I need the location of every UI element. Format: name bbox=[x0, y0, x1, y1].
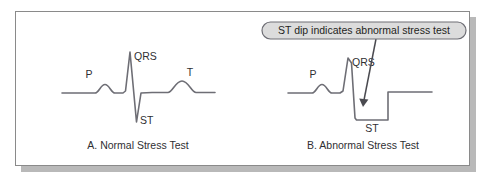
abnormal-label-p: P bbox=[309, 68, 316, 80]
callout-pointer-arrowhead bbox=[359, 99, 368, 107]
figure-root: P QRS ST T A. Normal Stress Test P QRS S… bbox=[0, 0, 488, 187]
callout-pointer-line bbox=[364, 39, 376, 100]
panel-normal: P QRS ST T A. Normal Stress Test bbox=[62, 50, 215, 151]
normal-panel-caption: A. Normal Stress Test bbox=[87, 139, 188, 151]
panel-abnormal: P QRS ST B. Abnormal Stress Test bbox=[288, 56, 432, 151]
abnormal-label-st: ST bbox=[365, 122, 379, 134]
normal-label-st: ST bbox=[140, 114, 154, 126]
abnormal-panel-caption: B. Abnormal Stress Test bbox=[307, 139, 419, 151]
callout-label: ST dip indicates abnormal stress test bbox=[278, 24, 450, 36]
ecg-diagram-svg: P QRS ST T A. Normal Stress Test P QRS S… bbox=[0, 0, 488, 187]
normal-ecg-trace bbox=[62, 52, 215, 122]
normal-label-qrs: QRS bbox=[134, 50, 157, 62]
normal-label-p: P bbox=[85, 68, 92, 80]
normal-label-t: T bbox=[187, 66, 194, 78]
